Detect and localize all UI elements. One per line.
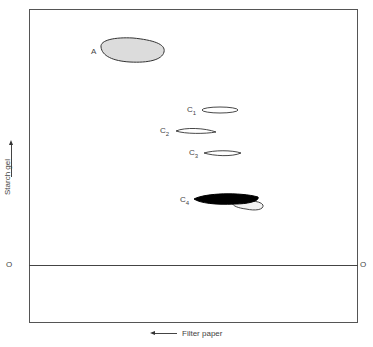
spot-c4 — [194, 194, 258, 204]
arrow-left-icon — [153, 333, 177, 334]
x-axis-label: Filter paper — [182, 329, 222, 338]
spot-c3 — [204, 151, 241, 156]
spot-c2-label: C2 — [160, 126, 169, 137]
y-axis-label: Starch gel — [3, 159, 12, 195]
spots-layer — [0, 0, 373, 347]
spot-c1 — [202, 107, 238, 113]
spot-c4-label: C4 — [180, 195, 189, 206]
spot-c2 — [176, 128, 216, 133]
spot-c1-label: C1 — [187, 105, 196, 116]
spot-c4-subscript: 4 — [186, 200, 189, 206]
spot-c1-subscript: 1 — [193, 110, 196, 116]
spot-a — [101, 38, 164, 62]
spot-c3-subscript: 3 — [195, 153, 198, 159]
spot-a-label: A — [91, 47, 96, 56]
spot-c2-subscript: 2 — [166, 131, 169, 137]
spot-c3-label: C3 — [189, 148, 198, 159]
